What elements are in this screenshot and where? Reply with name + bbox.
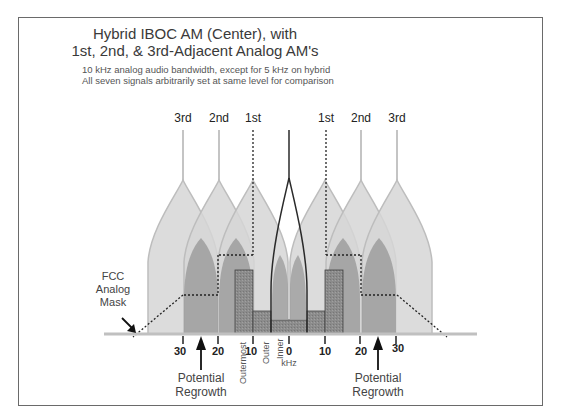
regrowth-arrow-right <box>373 336 383 370</box>
carrier-stems <box>183 130 397 182</box>
mask-label-line-1: FCC <box>102 270 125 282</box>
digital-sidebands <box>235 270 343 334</box>
tick-20-right: 20 <box>355 345 367 357</box>
mask-arrow <box>122 318 136 333</box>
regrowth-left-line-1: Potential <box>178 371 225 385</box>
spectrum-diagram: 3rd 2nd 1st 1st 2nd 3rd FCC Analog Mask … <box>0 0 562 416</box>
regrowth-arrow-left <box>196 336 206 370</box>
tick-30-left: 30 <box>174 345 186 357</box>
sideband-inner-label: Inner <box>275 338 285 359</box>
regrowth-right-line-1: Potential <box>355 371 402 385</box>
regrowth-right-line-2: Regrowth <box>352 385 403 399</box>
tick-0: 0 <box>286 345 292 357</box>
label-3rd-right: 3rd <box>388 111 405 125</box>
label-2nd-left: 2nd <box>209 111 229 125</box>
axis-ticks <box>183 336 396 344</box>
sideband-outer-label: Outer <box>261 341 271 364</box>
label-1st-right: 1st <box>318 111 335 125</box>
sideband-outermost-label: Outermost <box>238 341 248 384</box>
label-3rd-left: 3rd <box>174 111 191 125</box>
outermost-left <box>235 270 253 334</box>
label-1st-left: 1st <box>245 111 262 125</box>
tick-10-right: 10 <box>319 345 331 357</box>
label-2nd-right: 2nd <box>351 111 371 125</box>
outer-right <box>307 311 325 334</box>
mask-label-line-3: Mask <box>100 296 127 308</box>
tick-30-right: 30 <box>392 342 404 354</box>
tick-20-left: 20 <box>212 345 224 357</box>
regrowth-left-line-2: Regrowth <box>175 385 226 399</box>
inner-band <box>271 320 307 334</box>
outer-left <box>253 311 271 334</box>
outermost-right <box>325 270 343 334</box>
mask-label-line-2: Analog <box>96 283 130 295</box>
